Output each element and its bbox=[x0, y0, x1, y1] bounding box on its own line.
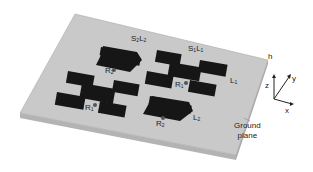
axis-y-label: y bbox=[292, 75, 296, 83]
label-l1: L1 bbox=[230, 77, 237, 85]
label-r2-bottom: R2 bbox=[156, 120, 165, 128]
label-s2l2: S2L2 bbox=[131, 35, 146, 43]
label-r1-left: R1 bbox=[85, 104, 94, 112]
ground-plane-line2: plane bbox=[234, 131, 261, 141]
axis-x-label: x bbox=[285, 107, 289, 115]
axes-triad bbox=[272, 74, 294, 106]
label-h: h bbox=[268, 53, 272, 61]
label-s1l1: S1L1 bbox=[188, 45, 203, 53]
label-l2: L2 bbox=[193, 114, 200, 122]
axis-z-label: z bbox=[265, 82, 269, 90]
label-r1-right: R1 bbox=[175, 81, 184, 89]
label-r2-top: R2 bbox=[105, 67, 114, 75]
label-ground-plane: Ground plane bbox=[234, 121, 261, 140]
ground-plane-line1: Ground bbox=[234, 121, 261, 131]
antenna-diagram: S2L2 S1L1 h L1 L2 R2 R1 R1 R2 Ground pla… bbox=[0, 0, 313, 172]
